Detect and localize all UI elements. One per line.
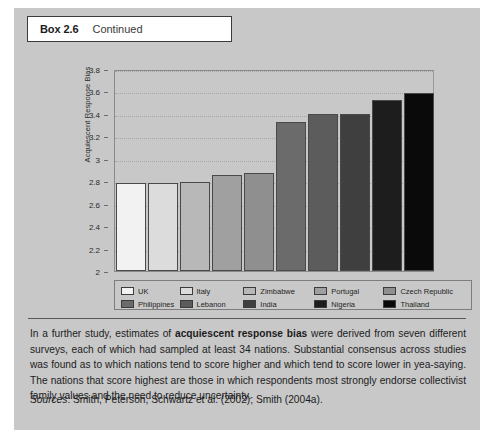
bar-uk xyxy=(116,183,145,271)
bar-zimbabwe xyxy=(180,182,209,271)
y-axis-tick-label: 2.4 xyxy=(89,223,100,232)
legend-swatch-icon xyxy=(121,300,134,308)
legend-swatch-icon xyxy=(180,300,193,308)
legend-label: Italy xyxy=(197,287,211,296)
bar-thailand xyxy=(404,93,433,271)
legend-item: Italy xyxy=(180,287,244,296)
legend-label: Portugal xyxy=(331,287,359,296)
y-axis-tick-mark xyxy=(104,160,108,161)
y-axis-tick-mark xyxy=(104,272,108,273)
bar-philippines xyxy=(276,122,305,271)
paragraph-text-part1: In a further study, estimates of xyxy=(30,328,175,339)
legend-label: Lebanon xyxy=(197,300,226,309)
y-axis-tick-label: 3.2 xyxy=(89,133,100,142)
y-axis-tick-label: 2.6 xyxy=(89,200,100,209)
legend-row: PhilippinesLebanonIndiaNigeriaThailand xyxy=(121,298,465,310)
y-axis-tick-mark xyxy=(104,227,108,228)
sources-line: Sources: Smith, Peterson, Schwartz et al… xyxy=(30,394,466,405)
y-axis-tick-label: 2.2 xyxy=(89,245,100,254)
bar-italy xyxy=(148,183,177,271)
legend-item: Portugal xyxy=(314,287,383,296)
legend-swatch-icon xyxy=(383,287,396,295)
legend-swatch-icon xyxy=(180,287,193,295)
legend-item: Czech Republic xyxy=(383,287,465,296)
legend-item: Philippines xyxy=(121,300,180,309)
legend-label: Philippines xyxy=(138,300,174,309)
legend-item: India xyxy=(243,300,314,309)
y-axis-tick-label: 2.8 xyxy=(89,178,100,187)
legend-row: UKItalyZimbabwePortugalCzech Republic xyxy=(121,285,465,297)
legend-label: India xyxy=(260,300,276,309)
legend-swatch-icon xyxy=(243,300,256,308)
y-axis-tick-label: 2 xyxy=(96,268,100,277)
y-axis-tick-mark xyxy=(104,137,108,138)
body-paragraph: In a further study, estimates of acquies… xyxy=(30,326,466,404)
legend-item: Zimbabwe xyxy=(243,287,314,296)
sources-text: : Smith, Peterson, Schwartz et al. (2002… xyxy=(67,394,322,405)
legend-swatch-icon xyxy=(383,300,396,308)
y-axis-tick-mark xyxy=(104,70,108,71)
bar-portugal xyxy=(212,175,241,272)
box-header: Box 2.6 Continued xyxy=(27,16,232,42)
legend-item: Nigeria xyxy=(314,300,383,309)
y-axis-tick-mark xyxy=(104,205,108,206)
legend-label: UK xyxy=(138,287,148,296)
y-axis-tick-label: 3.8 xyxy=(89,66,100,75)
y-axis-tick-mark xyxy=(104,182,108,183)
sources-label: Sources xyxy=(30,394,67,405)
bars-layer xyxy=(115,71,433,271)
legend-item: Thailand xyxy=(383,300,465,309)
legend-swatch-icon xyxy=(314,300,327,308)
box-container: Box 2.6 Continued Acquiescent Response B… xyxy=(14,8,480,430)
legend-item: Lebanon xyxy=(180,300,244,309)
legend-swatch-icon xyxy=(314,287,327,295)
chart-figure: Acquiescent Response Bias 22.22.42.62.83… xyxy=(42,52,474,310)
bar-nigeria xyxy=(372,100,401,271)
y-axis-tick-labels: 22.22.42.62.833.23.43.63.8 xyxy=(70,70,100,272)
y-axis-tick-label: 3.6 xyxy=(89,88,100,97)
y-axis-tick-mark xyxy=(104,250,108,251)
y-axis-tick-mark xyxy=(104,115,108,116)
paragraph-emphasis: acquiescent response bias xyxy=(175,328,307,339)
legend-label: Zimbabwe xyxy=(260,287,295,296)
legend-swatch-icon xyxy=(243,287,256,295)
legend-item: UK xyxy=(121,287,180,296)
legend-label: Thailand xyxy=(400,300,429,309)
y-axis-tick-label: 3 xyxy=(96,155,100,164)
box-continued-label: Continued xyxy=(92,23,142,35)
bar-india xyxy=(340,114,369,271)
legend-swatch-icon xyxy=(121,287,134,295)
box-number: Box 2.6 xyxy=(40,23,78,35)
y-axis-tick-mark xyxy=(104,92,108,93)
legend-label: Czech Republic xyxy=(400,287,453,296)
y-axis-tick-label: 3.4 xyxy=(89,110,100,119)
legend-label: Nigeria xyxy=(331,300,355,309)
plot-area xyxy=(114,70,434,272)
section-divider xyxy=(28,318,466,319)
chart-legend: UKItalyZimbabwePortugalCzech Republic Ph… xyxy=(114,280,472,310)
bar-lebanon xyxy=(308,114,337,271)
bar-czech-republic xyxy=(244,173,273,271)
